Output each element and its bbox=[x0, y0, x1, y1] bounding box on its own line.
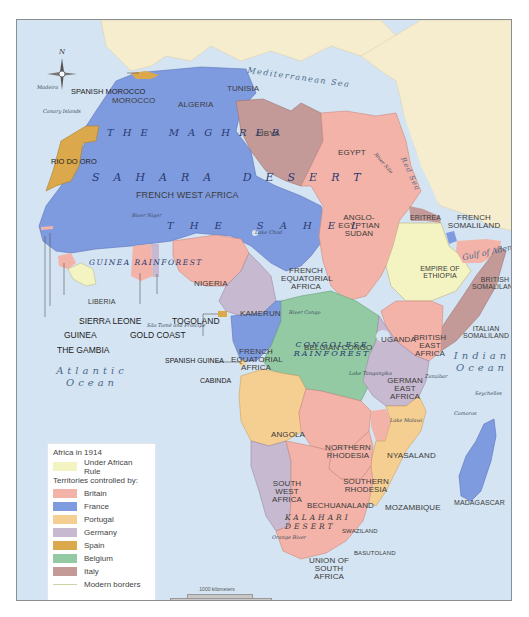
label-ethiopia: EMPIRE OF ETHIOPIA bbox=[416, 265, 464, 279]
legend-swatch-belgium bbox=[53, 554, 77, 563]
label-eritrea: ERITREA bbox=[410, 214, 441, 221]
zanzibar-label: Zanzibar bbox=[425, 373, 447, 379]
swa-text: SOUTH WEST AFRICA bbox=[272, 479, 302, 504]
orange-river-label: Orange River bbox=[272, 534, 306, 540]
legend-swatch-france bbox=[53, 502, 77, 511]
label-south-west-africa: SOUTH WEST AFRICA bbox=[269, 480, 305, 504]
label-southern-rhodesia: SOUTHERN RHODESIA bbox=[340, 478, 392, 494]
label-uganda: UGANDA bbox=[381, 336, 416, 344]
label-cabinda: CABINDA bbox=[200, 377, 231, 384]
label-rio-do-oro: RIO DO ORO bbox=[51, 158, 97, 166]
label-basutoland: BASUTOLAND bbox=[354, 550, 396, 556]
legend-label-france: France bbox=[84, 502, 109, 511]
label-egypt: EGYPT bbox=[338, 149, 366, 157]
legend-row-spain: Spain bbox=[53, 539, 150, 552]
label-morocco: MOROCCO bbox=[112, 97, 155, 105]
ethiopia bbox=[386, 223, 471, 301]
legend-swatch-spain bbox=[53, 541, 77, 550]
comoros-label: Comoros bbox=[454, 410, 477, 416]
legend-row-modern-borders: Modern borders bbox=[53, 578, 150, 591]
label-belgian-congo: BELGIAN CONGO bbox=[304, 344, 372, 352]
label-togoland: TOGOLAND bbox=[172, 317, 220, 326]
label-libya: LIBYA bbox=[257, 130, 280, 138]
madeira-label: Madeira bbox=[37, 84, 58, 90]
label-spanish-morocco: SPANISH MOROCCO bbox=[71, 88, 145, 96]
gea-text: GERMAN EAST AFRICA bbox=[387, 376, 423, 401]
map-legend: Africa in 1914 Under African Rule Territ… bbox=[47, 443, 156, 601]
label-sierra-leone: SIERRA LEONE bbox=[79, 317, 141, 326]
label-kamerun: KAMERUN bbox=[240, 310, 281, 318]
label-italian-somaliland: ITALIAN SOMALILAND bbox=[457, 325, 512, 339]
legend-row-france: France bbox=[53, 500, 150, 513]
legend-label-belgium: Belgium bbox=[84, 554, 113, 563]
seychelles-label: Seychelles bbox=[475, 390, 502, 396]
atlantic-label-line1: Atlantic bbox=[37, 365, 147, 377]
atlantic-label-line2: Ocean bbox=[37, 377, 147, 389]
scale-bar: 1000 kilometers 1000 miles bbox=[167, 586, 267, 601]
legend-row-belgium: Belgium bbox=[53, 552, 150, 565]
italian-somaliland-text: ITALIAN SOMALILAND bbox=[463, 325, 509, 339]
label-liberia: LIBERIA bbox=[88, 298, 116, 305]
legend-row-italy: Italy bbox=[53, 565, 150, 578]
label-nyasaland: NYASALAND bbox=[387, 452, 436, 460]
legend-subtitle: Territories controlled by: bbox=[53, 476, 150, 485]
scale-km-label: 1000 kilometers bbox=[167, 586, 267, 592]
bea-text: BRITISH EAST AFRICA bbox=[414, 333, 446, 358]
legend-label-germany: Germany bbox=[84, 528, 117, 537]
fea-south-text: FRENCH EQUATORIAL AFRICA bbox=[231, 347, 283, 372]
lake-malawi-label: Lake Malawi bbox=[390, 417, 422, 423]
label-gold-coast: GOLD COAST bbox=[130, 331, 186, 340]
fea-north-text: FRENCH EQUATORIAL AFRICA bbox=[281, 266, 333, 291]
legend-title: Africa in 1914 bbox=[53, 448, 150, 457]
legend-swatch-italy bbox=[53, 567, 77, 576]
legend-label-britain: Britain bbox=[84, 489, 107, 498]
label-tunisia: TUNISIA bbox=[227, 85, 259, 93]
label-the-gambia: THE GAMBIA bbox=[57, 346, 109, 355]
legend-label-italy: Italy bbox=[84, 567, 99, 576]
label-mozambique: MOZAMBIQUE bbox=[385, 504, 441, 512]
indian-label-line1: Indian bbox=[447, 350, 512, 362]
label-swaziland: SWAZILAND bbox=[342, 528, 378, 534]
label-british-east-africa: BRITISH EAST AFRICA bbox=[413, 334, 447, 358]
legend-row-britain: Britain bbox=[53, 487, 150, 500]
french-somaliland-text: FRENCH SOMALILAND bbox=[448, 213, 501, 230]
map-frame: N Mediterranean Sea Red Sea Gulf of Aden… bbox=[16, 19, 512, 601]
label-german-east-africa: GERMAN EAST AFRICA bbox=[385, 377, 425, 401]
river-niger-label: River Niger bbox=[132, 212, 162, 218]
label-anglo-egyptian-sudan: ANGLO-EGYPTIAN SUDAN bbox=[331, 214, 387, 238]
label-algeria: ALGERIA bbox=[178, 101, 213, 109]
legend-label-spain: Spain bbox=[84, 541, 104, 550]
legend-row-germany: Germany bbox=[53, 526, 150, 539]
n-rhodesia-text: NORTHERN RHODESIA bbox=[325, 443, 371, 460]
scale-miles-bar bbox=[170, 598, 272, 601]
label-spanish-guinea: SPANISH GUINEA bbox=[165, 357, 224, 364]
atlantic-ocean-label: Atlantic Ocean bbox=[37, 365, 147, 389]
british-somaliland-text: BRITISH SOMALILAND bbox=[472, 276, 512, 290]
sahara-label: SAHARA DESERT bbox=[92, 171, 375, 184]
sudan-text: ANGLO-EGYPTIAN SUDAN bbox=[338, 213, 379, 238]
label-french-somaliland: FRENCH SOMALILAND bbox=[445, 214, 503, 230]
label-northern-rhodesia: NORTHERN RHODESIA bbox=[323, 444, 373, 460]
legend-label-african-rule: Under African Rule bbox=[84, 458, 150, 476]
label-guinea: GUINEA bbox=[64, 331, 97, 340]
indian-ocean-label: Indian Ocean bbox=[447, 350, 512, 374]
label-angola: ANGOLA bbox=[271, 431, 305, 439]
river-congo-label: River Congo bbox=[289, 309, 320, 315]
label-french-equatorial-africa-n: FRENCH EQUATORIAL AFRICA bbox=[281, 267, 331, 291]
kalahari-label: KALAHARI DESERT bbox=[285, 513, 335, 531]
compass-north-label: N bbox=[59, 48, 65, 56]
legend-label-portugal: Portugal bbox=[84, 515, 114, 524]
legend-swatch-britain bbox=[53, 489, 77, 498]
europe-land bbox=[101, 20, 401, 71]
s-rhodesia-text: SOUTHERN RHODESIA bbox=[343, 477, 389, 494]
lake-tanganyika-label: Lake Tanganyika bbox=[349, 370, 392, 376]
label-french-west-africa: FRENCH WEST AFRICA bbox=[136, 191, 239, 200]
label-union-of-south-africa: UNION OF SOUTH AFRICA bbox=[299, 557, 359, 581]
label-british-somaliland: BRITISH SOMALILAND bbox=[466, 276, 512, 290]
guinea-rainforest-label: GUINEA RAINFOREST bbox=[89, 258, 203, 267]
indian-label-line2: Ocean bbox=[447, 362, 512, 374]
legend-swatch-african-rule bbox=[53, 462, 77, 471]
legend-swatch-portugal bbox=[53, 515, 77, 524]
label-french-equatorial-africa-s: FRENCH EQUATORIAL AFRICA bbox=[231, 348, 281, 372]
legend-label-modern-borders: Modern borders bbox=[84, 580, 140, 589]
